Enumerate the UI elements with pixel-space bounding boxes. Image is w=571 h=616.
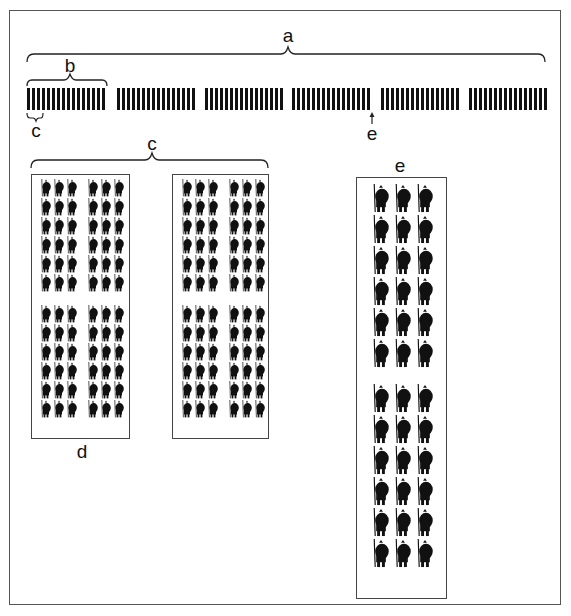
bar xyxy=(426,88,429,110)
soldier-icon xyxy=(66,274,78,292)
soldier-icon xyxy=(87,236,99,254)
soldier-icon xyxy=(415,446,435,475)
bar xyxy=(82,88,85,110)
soldier-icon xyxy=(100,236,112,254)
soldier-icon xyxy=(40,305,52,323)
soldier-icon xyxy=(207,305,219,323)
soldier-block xyxy=(371,384,437,570)
bar xyxy=(67,88,70,110)
bar xyxy=(210,88,213,110)
bar xyxy=(72,88,75,110)
soldier-icon xyxy=(53,381,65,399)
soldier-icon xyxy=(207,381,219,399)
soldier-icon xyxy=(371,539,391,568)
bar xyxy=(436,88,439,110)
soldier-icon xyxy=(113,324,125,342)
bar xyxy=(431,88,434,110)
soldier-icon xyxy=(371,246,391,275)
bar xyxy=(297,88,300,110)
bar xyxy=(484,88,487,110)
bar xyxy=(367,88,370,110)
soldier-icon xyxy=(113,179,125,197)
soldier-icon xyxy=(66,255,78,273)
soldier-icon xyxy=(100,198,112,216)
bar xyxy=(192,88,195,110)
soldier-icon xyxy=(87,179,99,197)
soldier-icon xyxy=(415,339,435,368)
bar xyxy=(147,88,150,110)
soldier-icon xyxy=(194,255,206,273)
bar xyxy=(292,88,295,110)
bar xyxy=(327,88,330,110)
bar-group xyxy=(292,88,370,110)
soldier-icon xyxy=(53,198,65,216)
detail-box-e xyxy=(356,177,447,599)
bar xyxy=(142,88,145,110)
soldier-icon xyxy=(53,274,65,292)
bar xyxy=(102,88,105,110)
soldier-icon xyxy=(393,446,413,475)
soldier-icon xyxy=(393,508,413,537)
bar xyxy=(446,88,449,110)
soldier-icon xyxy=(66,305,78,323)
soldier-icon xyxy=(241,236,253,254)
bar xyxy=(225,88,228,110)
bar xyxy=(137,88,140,110)
label-b: b xyxy=(65,56,76,75)
bar xyxy=(504,88,507,110)
soldier-icon xyxy=(53,324,65,342)
soldier-icon xyxy=(194,217,206,235)
soldier-icon xyxy=(241,362,253,380)
bar xyxy=(544,88,547,110)
soldier-icon xyxy=(181,362,193,380)
soldier-icon xyxy=(181,400,193,418)
bar xyxy=(307,88,310,110)
soldier-icon xyxy=(53,236,65,254)
bar xyxy=(391,88,394,110)
soldier-icon xyxy=(87,274,99,292)
bar xyxy=(172,88,175,110)
bar xyxy=(215,88,218,110)
soldier-icon xyxy=(207,343,219,361)
soldier-icon xyxy=(241,343,253,361)
bar xyxy=(157,88,160,110)
bar xyxy=(260,88,263,110)
soldier-icon xyxy=(40,381,52,399)
soldier-icon xyxy=(241,255,253,273)
soldier-icon xyxy=(393,415,413,444)
soldier-icon xyxy=(254,362,266,380)
soldier-icon xyxy=(181,198,193,216)
bar xyxy=(255,88,258,110)
soldier-icon xyxy=(241,217,253,235)
soldier-icon xyxy=(66,179,78,197)
soldier-icon xyxy=(228,362,240,380)
soldier-icon xyxy=(113,255,125,273)
soldier-icon xyxy=(415,415,435,444)
soldier-icon xyxy=(87,324,99,342)
bar xyxy=(32,88,35,110)
soldier-icon xyxy=(207,362,219,380)
soldier-icon xyxy=(207,255,219,273)
soldier-icon xyxy=(228,400,240,418)
soldier-icon xyxy=(87,305,99,323)
bar xyxy=(386,88,389,110)
soldier-icon xyxy=(40,274,52,292)
soldier-icon xyxy=(371,339,391,368)
brace-c-large xyxy=(31,153,268,168)
soldier-icon xyxy=(228,217,240,235)
soldier-icon xyxy=(66,362,78,380)
soldier-icon xyxy=(100,400,112,418)
soldier-icon xyxy=(241,381,253,399)
soldier-icon xyxy=(113,362,125,380)
soldier-icon xyxy=(113,274,125,292)
bar xyxy=(240,88,243,110)
bar xyxy=(347,88,350,110)
soldier-icon xyxy=(207,198,219,216)
soldier-icon xyxy=(100,255,112,273)
soldier-icon xyxy=(113,236,125,254)
soldier-icon xyxy=(254,324,266,342)
bar xyxy=(62,88,65,110)
soldier-icon xyxy=(207,217,219,235)
label-e-box: e xyxy=(395,156,406,175)
soldier-icon xyxy=(181,305,193,323)
